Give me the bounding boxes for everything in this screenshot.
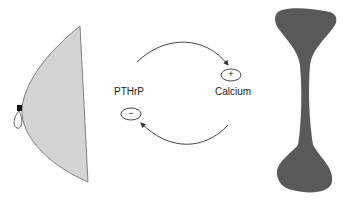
breast-shape <box>22 26 88 182</box>
diagram-canvas <box>0 0 347 205</box>
droplet-icon <box>14 111 22 128</box>
nipple-icon <box>17 105 22 111</box>
calcium-label: Calcium <box>215 86 251 97</box>
stimulation-arrow <box>137 42 228 65</box>
pthrp-label: PTHrP <box>114 86 144 97</box>
positive-sign: + <box>226 69 236 80</box>
inhibition-arrow <box>141 123 228 144</box>
negative-sign: − <box>126 108 136 119</box>
bone-shape <box>275 8 336 192</box>
